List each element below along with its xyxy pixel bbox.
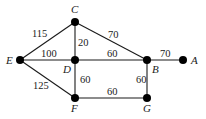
edge-weight-e-f: 125 [33, 80, 49, 91]
node-label-f: F [70, 102, 78, 114]
node-f [71, 94, 79, 102]
edge-weight-d-b: 60 [107, 48, 118, 59]
node-b [143, 56, 151, 64]
node-e [16, 56, 24, 64]
node-label-b: B [152, 63, 159, 75]
edge-weight-f-g: 60 [107, 86, 118, 97]
edge-weight-b-a: 70 [160, 48, 171, 59]
edge-weight-c-d: 20 [78, 37, 89, 48]
node-label-e: E [5, 54, 13, 66]
node-d [71, 56, 79, 64]
node-label-d: D [62, 63, 71, 75]
node-label-a: A [190, 54, 198, 66]
edge-weight-d-f: 60 [80, 74, 91, 85]
node-g [143, 94, 151, 102]
edge-weight-c-b: 70 [108, 29, 119, 40]
weighted-graph-diagram: 11520701006070125606060 ABCDEFG [0, 0, 206, 119]
node-label-c: C [71, 3, 79, 15]
node-label-g: G [143, 102, 151, 114]
edge-weight-b-g: 60 [136, 74, 147, 85]
edge-weight-e-c: 115 [32, 28, 47, 39]
node-c [71, 18, 79, 26]
edge-weight-e-d: 100 [41, 48, 57, 59]
node-a [179, 56, 187, 64]
